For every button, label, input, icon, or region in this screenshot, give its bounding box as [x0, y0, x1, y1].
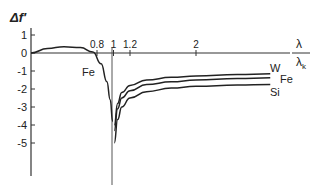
y-tick-label: 0 — [21, 47, 27, 59]
x-axis-label-numerator: λ — [296, 37, 302, 51]
x-tick-label: 2 — [193, 39, 199, 50]
x-axis-label-denominator: λk — [296, 55, 307, 71]
series-lines — [31, 47, 270, 143]
chart-canvas: Δf′ 10-1-2-3-4-5 0.811.22 λ λk Fe W Fe S… — [0, 0, 326, 194]
y-axis-label: Δf′ — [9, 10, 27, 25]
y-ticks: 10-1-2-3-4-5 — [17, 29, 35, 149]
y-tick-label: -1 — [17, 65, 27, 77]
x-tick-label: 1.2 — [123, 39, 137, 50]
x-tick-label: 0.8 — [90, 39, 104, 50]
y-tick-label: -3 — [17, 101, 27, 113]
series-line-w-1 — [114, 74, 270, 125]
y-tick-label: -5 — [17, 137, 27, 149]
label-si: Si — [270, 86, 280, 98]
series-line-si-3 — [114, 85, 270, 144]
label-fe-right: Fe — [280, 73, 293, 85]
y-tick-label: -2 — [17, 83, 27, 95]
x-tick-label: 1 — [111, 39, 117, 50]
y-tick-label: 1 — [21, 29, 27, 41]
label-fe-left: Fe — [82, 66, 95, 78]
series-line-fe-0 — [31, 47, 113, 122]
y-tick-label: -4 — [17, 119, 27, 131]
